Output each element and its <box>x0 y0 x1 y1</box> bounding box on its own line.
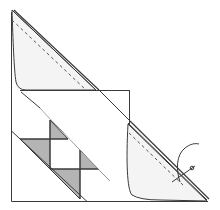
diagram-svg <box>0 0 220 210</box>
shaded-triangle-4 <box>50 169 80 199</box>
lower-right-folded-triangle <box>127 121 209 201</box>
upper-folded-triangle <box>12 10 99 90</box>
quilt-diagram <box>0 0 220 210</box>
